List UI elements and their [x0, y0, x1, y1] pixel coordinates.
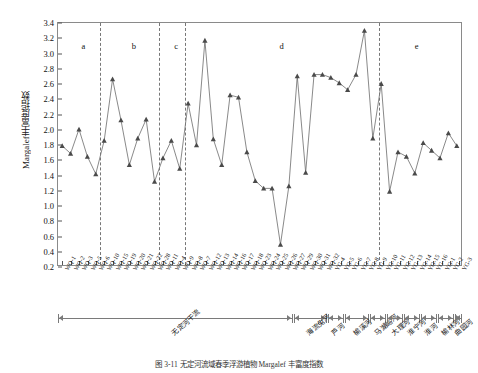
plot-inner: 0.20.40.60.81.01.21.41.61.82.02.22.42.62… [58, 23, 461, 265]
data-point-marker [127, 162, 132, 167]
data-point-marker [303, 170, 308, 175]
y-axis-tick-label: 2.8 [43, 64, 58, 74]
data-point-marker [160, 155, 165, 160]
y-axis-tick-mark [58, 23, 62, 24]
group-arrow-right-icon [456, 315, 460, 321]
group-arrow-left-icon [405, 315, 409, 321]
data-point-marker [102, 138, 107, 143]
data-point-marker [211, 136, 216, 141]
data-point-marker [194, 143, 199, 148]
y-axis-tick-mark [58, 99, 62, 100]
plot-area: 0.20.40.60.81.01.21.41.61.82.02.22.42.62… [57, 22, 462, 266]
x-axis-tick-mark [62, 261, 63, 265]
group-arrow-left-icon [388, 315, 392, 321]
data-point-marker [295, 74, 300, 79]
figure-caption: 图 3-11 无定河流域春季浮游植物 Margalef 丰富度指数 [0, 358, 478, 369]
group-divider [379, 23, 380, 265]
data-point-marker [110, 77, 115, 82]
group-divider [185, 23, 186, 265]
data-point-marker [421, 140, 426, 145]
y-axis-tick-mark [58, 267, 62, 268]
y-axis-tick-mark [58, 236, 62, 237]
data-point-marker [169, 138, 174, 143]
data-point-marker [186, 101, 191, 106]
group-name-label: 无定河干流 [169, 307, 202, 338]
y-axis-tick-mark [58, 84, 62, 85]
y-axis-tick-label: 3.0 [43, 49, 58, 59]
series-line [58, 23, 461, 266]
data-point-marker [93, 171, 98, 176]
data-point-marker [76, 127, 81, 132]
y-axis-tick-mark [58, 206, 62, 207]
y-axis-tick-mark [58, 221, 62, 222]
group-arrow-right-icon [287, 315, 291, 321]
y-axis-tick-mark [58, 68, 62, 69]
group-letter-label: e [415, 41, 419, 51]
data-point-marker [412, 171, 417, 176]
data-point-marker [135, 136, 140, 141]
group-arrow-left-icon [439, 315, 443, 321]
group-arrow-left-icon [295, 315, 299, 321]
data-point-marker [177, 166, 182, 171]
y-axis-tick-label: 1.8 [43, 140, 58, 150]
group-range-tick [436, 314, 437, 323]
y-axis-tick-label: 0.4 [43, 247, 58, 257]
group-letter-label: d [279, 41, 283, 51]
group-arrow-left-icon [422, 315, 426, 321]
data-point-marker [118, 118, 123, 123]
y-axis-tick-label: 0.8 [43, 216, 58, 226]
data-point-marker [362, 28, 367, 33]
data-point-marker [328, 75, 333, 80]
data-point-marker [85, 154, 90, 159]
data-point-marker [286, 184, 291, 189]
group-name-label: 芦河 [329, 321, 346, 338]
data-point-marker [278, 242, 283, 247]
y-axis-tick-label: 1.2 [43, 186, 58, 196]
group-bracket-band: 无定河干流海流兔河芦河榆溪河马湖峪河大理河淮宁河淮河榆林河曲园河 [57, 312, 462, 326]
group-arrow-left-icon [371, 315, 375, 321]
y-axis-tick-label: 3.4 [43, 18, 58, 28]
y-axis-tick-mark [58, 114, 62, 115]
y-axis-tick-mark [58, 145, 62, 146]
y-axis-tick-label: 2.4 [43, 94, 58, 104]
y-axis-tick-mark [58, 38, 62, 39]
group-arrow-left-icon [329, 315, 333, 321]
group-divider [100, 23, 101, 265]
y-axis-tick-mark [58, 129, 62, 130]
y-axis-tick-label: 2.6 [43, 79, 58, 89]
data-point-marker [228, 92, 233, 97]
group-divider [159, 23, 160, 265]
data-point-marker [144, 117, 149, 122]
data-point-marker [253, 178, 258, 183]
y-axis-tick-label: 1.4 [43, 171, 58, 181]
data-point-marker [219, 162, 224, 167]
y-axis-tick-label: 3.2 [43, 33, 58, 43]
y-axis-tick-mark [58, 160, 62, 161]
y-axis-tick-mark [58, 190, 62, 191]
y-axis-tick-label: 0.6 [43, 232, 58, 242]
data-point-marker [152, 179, 157, 184]
group-range-line [58, 318, 292, 319]
data-point-marker [446, 130, 451, 135]
group-arrow-left-icon [59, 315, 63, 321]
data-point-marker [337, 80, 342, 85]
group-range-tick [292, 314, 293, 323]
y-axis-tick-label: 1.6 [43, 155, 58, 165]
y-axis-tick-mark [58, 251, 62, 252]
group-range-tick [343, 314, 344, 323]
data-point-marker [202, 38, 207, 43]
y-axis-title: Margalef丰富度指数 [14, 30, 36, 230]
chart-page: Margalef丰富度指数 0.20.40.60.81.01.21.41.61.… [0, 0, 478, 373]
group-letter-label: c [174, 41, 178, 51]
group-letter-label: a [81, 41, 85, 51]
y-axis-tick-label: 0.2 [43, 262, 58, 272]
y-axis-tick-mark [58, 175, 62, 176]
data-point-marker [387, 189, 392, 194]
y-axis-tick-label: 2.0 [43, 125, 58, 135]
data-point-marker [395, 149, 400, 154]
data-point-marker [353, 72, 358, 77]
data-point-marker [454, 143, 459, 148]
data-point-marker [370, 136, 375, 141]
y-axis-tick-label: 2.2 [43, 110, 58, 120]
y-axis-tick-label: 1.0 [43, 201, 58, 211]
